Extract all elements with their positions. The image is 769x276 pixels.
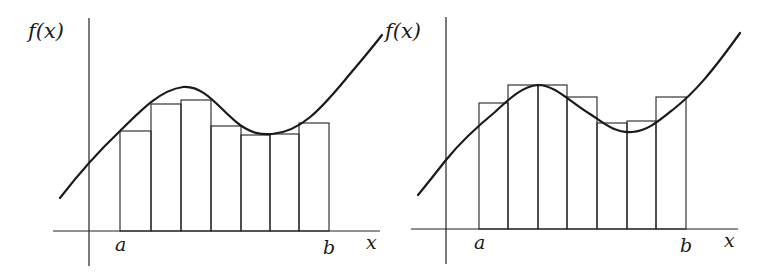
function-curve <box>418 33 740 195</box>
riemann-rectangle <box>597 123 627 229</box>
riemann-rectangle <box>211 126 241 231</box>
a-label: a <box>474 231 485 253</box>
riemann-rectangle <box>508 85 538 229</box>
riemann-rectangle <box>270 134 299 231</box>
riemann-rectangle <box>627 121 656 229</box>
y-axis-label: f(x) <box>26 19 64 43</box>
b-label: b <box>323 236 335 258</box>
x-axis-label: x <box>366 231 377 253</box>
riemann-rectangle <box>241 135 270 231</box>
riemann-rectangle <box>151 104 181 231</box>
x-axis-label: x <box>724 229 735 251</box>
figure-canvas: f(x)abx f(x)abx <box>0 0 769 276</box>
riemann-rectangle <box>181 100 211 231</box>
function-curve <box>60 35 382 198</box>
b-label: b <box>680 234 692 256</box>
riemann-rectangle <box>299 123 329 231</box>
y-axis-label: f(x) <box>383 19 421 43</box>
a-label: a <box>115 233 126 255</box>
right-panel: f(x)abx <box>383 17 740 264</box>
riemann-rectangle <box>120 131 151 231</box>
riemann-rectangle <box>538 85 567 229</box>
left-panel: f(x)abx <box>26 18 382 266</box>
riemann-sum-figure: f(x)abx f(x)abx <box>0 0 769 276</box>
riemann-rectangle <box>656 97 686 229</box>
